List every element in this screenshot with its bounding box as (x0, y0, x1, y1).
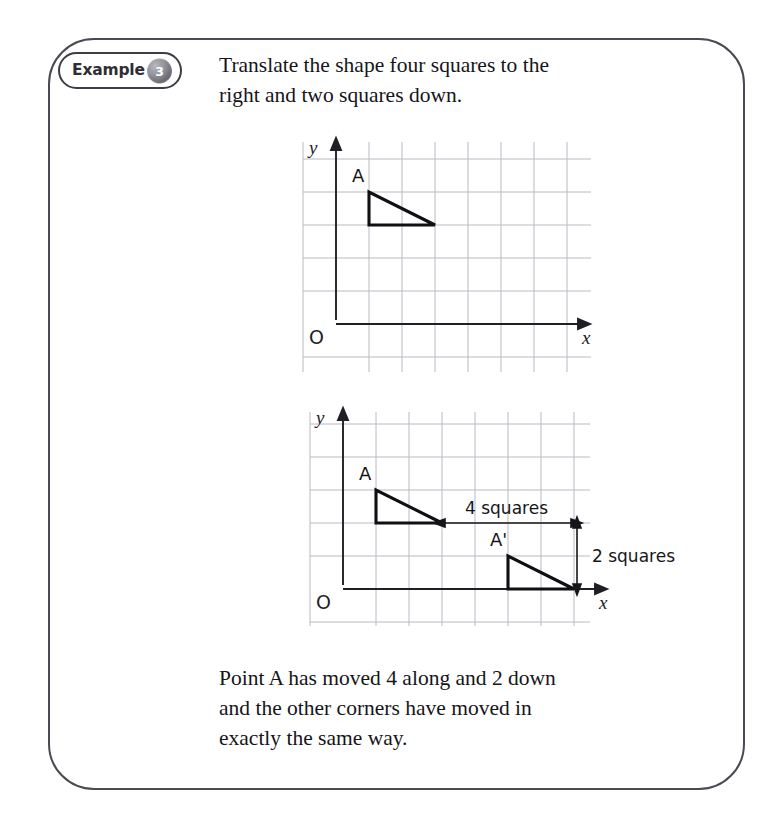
y-axis-label: y (307, 137, 318, 158)
vertex-label-A: A (359, 463, 372, 484)
axes (331, 138, 590, 329)
figure-one-svg: y x O A (296, 132, 596, 382)
page-top-text-sliver (0, 0, 768, 16)
origin-label: O (316, 591, 331, 613)
grid-lines (310, 412, 590, 626)
example-badge-label: Example (72, 63, 145, 79)
annotation-label-vertical: 2 squares (592, 546, 675, 566)
figure-two-svg: y x O A A' 4 squares 2 squares (300, 404, 700, 634)
vertex-label-A-prime: A' (490, 529, 507, 550)
grid-lines (303, 142, 591, 372)
origin-label: O (309, 326, 324, 348)
figure-one: y x O A (296, 132, 596, 382)
x-axis-label: x (581, 327, 591, 348)
y-axis-arrowhead (338, 408, 348, 420)
y-axis-label: y (314, 407, 325, 428)
example-badge: Example 3 (58, 52, 182, 89)
x-axis-label: x (598, 592, 608, 613)
y-axis-arrowhead (331, 138, 341, 150)
instruction-text: Translate the shape four squares to the … (219, 50, 549, 110)
conclusion-text: Point A has moved 4 along and 2 down and… (219, 663, 579, 753)
vertex-label-A: A (352, 165, 365, 186)
example-badge-number: 3 (147, 58, 172, 83)
figure-two: y x O A A' 4 squares 2 squares (300, 404, 700, 634)
annotation-label-horizontal: 4 squares (465, 498, 548, 518)
